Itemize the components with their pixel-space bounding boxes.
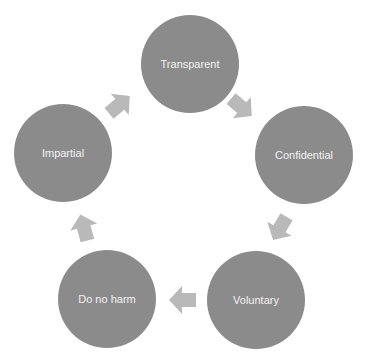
arrow-do-no-harm-to-impartial [67, 211, 101, 244]
node-confidential: Confidential [255, 106, 353, 204]
node-label: Do no harm [78, 293, 135, 305]
node-label: Impartial [42, 147, 84, 159]
node-do-no-harm: Do no harm [58, 250, 156, 348]
node-label: Confidential [275, 149, 333, 161]
arrow-voluntary-to-do-no-harm [169, 286, 196, 314]
cycle-diagram: Transparent Confidential Voluntary Do no… [0, 0, 365, 362]
arrow-impartial-to-transparent [100, 85, 139, 124]
arrow-confidential-to-voluntary [261, 210, 299, 247]
node-label: Voluntary [233, 294, 279, 306]
node-voluntary: Voluntary [207, 251, 305, 349]
node-transparent: Transparent [141, 15, 239, 113]
node-impartial: Impartial [14, 104, 112, 202]
node-label: Transparent [161, 58, 220, 70]
